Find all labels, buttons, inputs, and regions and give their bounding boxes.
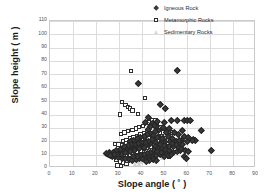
data-point xyxy=(137,162,141,166)
filled-diamond-icon xyxy=(152,3,164,13)
y-tick-label: 80 xyxy=(31,57,47,62)
data-point xyxy=(188,117,194,123)
gridline-horizontal xyxy=(50,101,254,102)
y-tick-label: 10 xyxy=(31,151,47,156)
open-square-icon xyxy=(152,15,164,25)
data-point xyxy=(119,164,123,168)
x-tick-label: 40 xyxy=(133,171,149,176)
y-tick-label: 50 xyxy=(31,98,47,103)
y-tick-label: 60 xyxy=(31,84,47,89)
y-tick-label: 110 xyxy=(31,17,47,22)
data-point xyxy=(135,80,141,86)
gridline-vertical xyxy=(233,21,234,166)
y-tick-label: 100 xyxy=(31,31,47,36)
data-point xyxy=(174,67,180,73)
plot-area xyxy=(49,20,255,167)
data-point xyxy=(208,147,214,153)
gridline-horizontal xyxy=(50,74,254,75)
x-axis-ticks: 0102030405060708090 xyxy=(49,171,255,179)
x-tick-label: 30 xyxy=(110,171,126,176)
y-axis-ticks: 0102030405060708090100110 xyxy=(28,20,47,167)
x-axis-title: Slope angle ( ˚ ) xyxy=(49,179,255,189)
gridline-horizontal xyxy=(50,88,254,89)
data-point xyxy=(118,112,122,116)
open-triangle-icon xyxy=(152,27,164,37)
legend-item: Metamorphic Rocks xyxy=(152,14,264,26)
x-tick-label: 20 xyxy=(87,171,103,176)
gridline-vertical xyxy=(96,21,97,166)
legend-label: Metamorphic Rocks xyxy=(164,17,213,23)
data-point xyxy=(183,155,189,161)
legend-item: Igneous Rock xyxy=(152,2,264,14)
y-axis-title: Slope height ( m ) xyxy=(10,0,20,135)
y-tick-label: 70 xyxy=(31,71,47,76)
x-tick-label: 50 xyxy=(155,171,171,176)
x-tick-label: 60 xyxy=(178,171,194,176)
x-tick-label: 80 xyxy=(224,171,240,176)
legend-item: Sedimentary Rocks xyxy=(152,26,264,38)
y-tick-label: 0 xyxy=(31,164,47,169)
data-point xyxy=(130,108,134,112)
data-point xyxy=(136,112,140,116)
x-tick-label: 0 xyxy=(41,171,57,176)
chart-figure: Slope height ( m ) 010203040506070809010… xyxy=(0,0,266,195)
data-point xyxy=(185,148,191,154)
x-tick-label: 90 xyxy=(247,171,263,176)
legend: Igneous RockMetamorphic RocksSedimentary… xyxy=(152,2,264,38)
data-point xyxy=(129,69,133,73)
gridline-horizontal xyxy=(50,48,254,49)
x-tick-label: 70 xyxy=(201,171,217,176)
data-point xyxy=(174,117,180,123)
legend-label: Igneous Rock xyxy=(164,5,198,11)
x-tick-label: 10 xyxy=(64,171,80,176)
gridline-vertical xyxy=(73,21,74,166)
y-tick-label: 20 xyxy=(31,138,47,143)
data-point xyxy=(143,96,147,100)
data-point xyxy=(124,162,128,166)
y-tick-label: 40 xyxy=(31,111,47,116)
data-point xyxy=(162,105,168,111)
y-tick-label: 90 xyxy=(31,44,47,49)
legend-label: Sedimentary Rocks xyxy=(164,29,213,35)
gridline-vertical xyxy=(210,21,211,166)
y-tick-label: 30 xyxy=(31,124,47,129)
gridline-horizontal xyxy=(50,115,254,116)
gridline-horizontal xyxy=(50,61,254,62)
